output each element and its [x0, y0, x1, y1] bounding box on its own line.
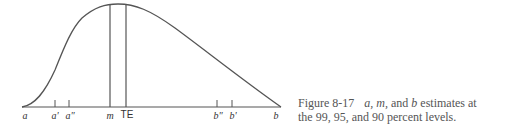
- label-a-double-prime: a": [65, 110, 74, 121]
- beta-distribution-figure: a a' a" m TE b" b' b: [0, 0, 290, 130]
- caption-vars: a, m,: [364, 96, 388, 110]
- label-b-double-prime: b": [213, 110, 222, 121]
- caption-line-2: the 99, 95, and 90 percent levels.: [298, 110, 518, 124]
- caption-estimates: estimates at: [417, 96, 476, 110]
- distribution-curve-plot: [0, 0, 290, 130]
- label-a: a: [23, 110, 28, 121]
- label-m: m: [106, 110, 113, 121]
- caption-and: and: [388, 96, 411, 110]
- label-a-prime: a': [51, 110, 58, 121]
- figure-caption: Figure 8-17a, m, and b estimates at the …: [298, 96, 518, 124]
- label-b-prime: b': [229, 110, 236, 121]
- figure-number: Figure 8-17: [298, 96, 354, 110]
- label-te: TE: [121, 109, 134, 120]
- caption-line-1: Figure 8-17a, m, and b estimates at: [298, 96, 518, 110]
- distribution-curve: [22, 4, 281, 107]
- label-b: b: [274, 110, 279, 121]
